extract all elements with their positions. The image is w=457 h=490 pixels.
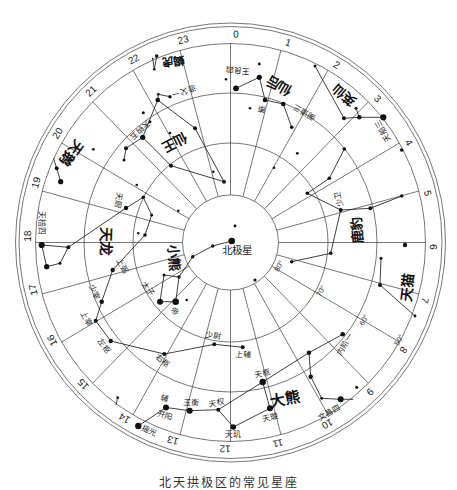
star-dra-xi	[66, 245, 70, 249]
star-name-label: 造父一	[171, 84, 197, 100]
constellation-line	[176, 277, 179, 302]
constellation-line	[218, 410, 233, 427]
star-cas-gamma	[263, 98, 268, 103]
hour-label: 6	[428, 244, 439, 250]
constellation-line	[193, 246, 213, 257]
star-schedar	[257, 75, 262, 80]
star-name-label: 右枢	[153, 352, 172, 370]
star-name-label: 摇光	[140, 423, 159, 439]
constellation-line	[166, 408, 190, 411]
star-lac-a	[155, 54, 159, 58]
star-caph	[233, 85, 239, 91]
hour-label: 17	[26, 283, 39, 297]
constellation-label: 英仙	[329, 81, 359, 110]
star-s-cyg1	[92, 148, 95, 151]
constellation-line	[102, 270, 113, 302]
star-lac-c	[152, 58, 154, 60]
star-dra-iota	[109, 339, 113, 343]
star-dra-theta	[94, 319, 98, 323]
star-dra-kappa	[212, 342, 216, 346]
star-cas-zeta	[258, 63, 261, 66]
star-name-label: 上宰	[78, 309, 94, 328]
star-name-label: 北极星	[222, 244, 252, 256]
constellation-line	[283, 104, 291, 127]
star-dubhe	[260, 379, 266, 385]
hour-label: 20	[50, 125, 65, 141]
star-per-gamma	[357, 115, 362, 120]
star-cyg-kappa	[58, 179, 63, 184]
star-name-label: 玉衡	[183, 397, 200, 408]
star-per-1	[314, 65, 317, 68]
star-uma-23	[307, 351, 311, 355]
constellation-line	[370, 196, 401, 208]
star-cep-eps	[157, 93, 160, 96]
star-cep-gamma	[222, 180, 226, 184]
figure-caption: 北天拱极区的常见星座	[0, 477, 457, 489]
star-umi-eta	[163, 274, 166, 277]
constellation-line	[171, 166, 224, 182]
hour-label: 18	[22, 230, 33, 242]
constellation-line	[153, 59, 155, 70]
star-cep-iota	[193, 126, 197, 130]
star-alioth	[187, 408, 193, 414]
star-lyn-2	[378, 283, 382, 287]
star-eltanin	[39, 242, 45, 248]
declination-label: 70°	[314, 284, 327, 298]
star-per-eta	[342, 116, 346, 120]
hour-label: 16	[44, 333, 59, 348]
star-s-bl1	[116, 396, 119, 399]
star-s-cam1	[400, 148, 404, 152]
constellation-line	[160, 275, 164, 302]
constellation-line	[329, 149, 344, 178]
star-name-label: 辅	[160, 393, 170, 405]
hour-label: 12	[219, 443, 231, 454]
declination-label: 80°	[272, 259, 285, 273]
constellation-line	[42, 245, 47, 267]
constellation-line	[309, 353, 311, 377]
constellation-label: 小熊	[165, 244, 183, 272]
star-cam-1	[343, 147, 347, 151]
star-uma-theta	[338, 396, 344, 402]
star-s-cam2	[296, 152, 299, 155]
star-cam-5	[290, 260, 294, 264]
star-dra-tau	[150, 214, 153, 217]
star-name-label: 王良四	[226, 64, 251, 76]
star-dra-eta	[99, 299, 104, 304]
constellation-line	[111, 341, 165, 354]
constellation-line	[214, 344, 242, 347]
star-name-label: 天玑	[225, 430, 241, 439]
declination-label: 50°	[392, 333, 405, 347]
star-pherkad	[157, 299, 163, 305]
hour-label: 1	[284, 36, 293, 48]
constellation-line	[380, 258, 381, 285]
star-s-umi1	[185, 299, 188, 302]
constellation-line	[236, 77, 259, 88]
star-cep-delta	[168, 95, 171, 98]
star-uma-upsilon	[309, 375, 313, 379]
star-name-label: 天棓四	[37, 211, 47, 235]
star-cam-beta	[368, 206, 372, 210]
star-dra-chi	[143, 233, 147, 237]
constellation-label: 天猫	[398, 273, 417, 303]
star-name-label: 帝	[168, 304, 181, 317]
star-rastaban	[44, 264, 49, 269]
star-s-c1	[234, 225, 237, 228]
star-s-uma1	[355, 386, 358, 389]
star-cam-2	[328, 177, 332, 181]
star-s-cas1	[225, 78, 228, 81]
star-s-r6	[403, 243, 407, 247]
star-name-label: 上辅	[235, 349, 252, 360]
constellation-line	[126, 197, 143, 208]
hour-label: 9	[364, 386, 376, 398]
star-name-label: 少尉	[204, 329, 221, 341]
hour-line	[180, 288, 218, 434]
hour-label: 23	[176, 33, 190, 46]
star-cas-delta	[281, 102, 286, 107]
star-s-c3	[177, 209, 180, 212]
constellation-label: 天龙	[97, 227, 115, 257]
star-cep-mu	[142, 111, 145, 114]
star-per-tau	[355, 107, 358, 110]
star-cep-beta	[169, 164, 173, 168]
constellation-label: 鹿豹	[348, 216, 366, 244]
